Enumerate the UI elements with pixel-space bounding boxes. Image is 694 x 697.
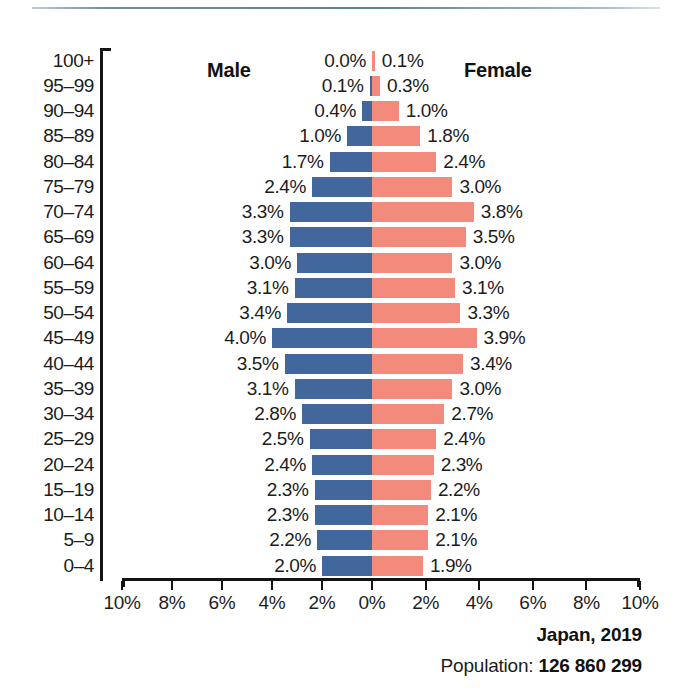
bar-female: [372, 354, 463, 374]
age-group-label: 90–94: [14, 100, 94, 122]
value-label-female: 2.3%: [441, 454, 511, 476]
x-axis-tick: [585, 581, 587, 590]
pyramid-row: 5–92.2%2.1%: [0, 528, 694, 553]
pyramid-row: 100+0.0%0.1%: [0, 48, 694, 73]
pyramid-row: 45–494.0%3.9%: [0, 326, 694, 351]
bar-male: [310, 429, 373, 449]
population-pyramid-chart: 10%8%6%4%2%0%2%4%6%8%10% 100+0.0%0.1%95–…: [0, 0, 694, 697]
x-axis-tick-label: 4%: [449, 592, 509, 614]
bar-female: [372, 556, 423, 576]
pyramid-row: 55–593.1%3.1%: [0, 275, 694, 300]
value-label-male: 2.4%: [236, 454, 306, 476]
bar-male: [362, 101, 372, 121]
age-group-label: 45–49: [14, 327, 94, 349]
value-label-female: 1.0%: [406, 100, 476, 122]
bar-male: [297, 253, 372, 273]
bar-female: [372, 278, 455, 298]
x-axis-tick: [532, 581, 534, 590]
value-label-female: 3.0%: [459, 252, 529, 274]
x-axis-tick: [171, 581, 173, 590]
pyramid-row: 75–792.4%3.0%: [0, 174, 694, 199]
age-group-label: 10–14: [14, 504, 94, 526]
x-axis-tick: [221, 581, 223, 590]
bar-male: [315, 480, 373, 500]
header-divider: [32, 7, 660, 9]
bar-male: [287, 303, 372, 323]
bar-male: [272, 328, 372, 348]
bar-male: [285, 354, 373, 374]
value-label-male: 3.5%: [209, 353, 279, 375]
pyramid-rows: 100+0.0%0.1%95–990.1%0.3%90–940.4%1.0%85…: [0, 48, 694, 578]
pyramid-row: 65–693.3%3.5%: [0, 225, 694, 250]
value-label-male: 2.5%: [234, 428, 304, 450]
value-label-male: 0.0%: [296, 50, 366, 72]
bar-male: [302, 404, 372, 424]
value-label-male: 2.2%: [241, 529, 311, 551]
age-group-label: 25–29: [14, 428, 94, 450]
value-label-female: 2.2%: [438, 479, 508, 501]
value-label-male: 2.0%: [246, 555, 316, 577]
pyramid-row: 80–841.7%2.4%: [0, 149, 694, 174]
bar-female: [372, 480, 431, 500]
value-label-female: 2.4%: [443, 151, 513, 173]
value-label-female: 3.3%: [467, 302, 537, 324]
bar-female: [372, 505, 428, 525]
bar-male: [312, 177, 372, 197]
bar-male: [347, 126, 372, 146]
value-label-male: 3.1%: [219, 277, 289, 299]
bar-male: [315, 505, 373, 525]
x-axis-tick-label: 0%: [342, 592, 402, 614]
age-group-label: 80–84: [14, 151, 94, 173]
age-group-label: 50–54: [14, 302, 94, 324]
pyramid-row: 10–142.3%2.1%: [0, 503, 694, 528]
pyramid-row: 0–42.0%1.9%: [0, 553, 694, 578]
pyramid-row: 95–990.1%0.3%: [0, 73, 694, 98]
bar-female: [372, 429, 436, 449]
bar-male: [290, 227, 373, 247]
bar-female: [372, 51, 375, 71]
x-axis-tick-label: 10%: [610, 592, 670, 614]
pyramid-row: 30–342.8%2.7%: [0, 402, 694, 427]
value-label-male: 0.1%: [294, 75, 364, 97]
bar-male: [295, 278, 373, 298]
age-group-label: 40–44: [14, 353, 94, 375]
value-label-male: 3.3%: [214, 201, 284, 223]
pyramid-row: 40–443.5%3.4%: [0, 351, 694, 376]
pyramid-row: 15–192.3%2.2%: [0, 477, 694, 502]
pyramid-row: 85–891.0%1.8%: [0, 124, 694, 149]
value-label-male: 2.8%: [226, 403, 296, 425]
value-label-female: 0.1%: [382, 50, 452, 72]
value-label-female: 0.3%: [387, 75, 457, 97]
value-label-male: 3.1%: [219, 378, 289, 400]
bar-female: [372, 379, 452, 399]
age-group-label: 30–34: [14, 403, 94, 425]
bar-female: [372, 101, 399, 121]
age-group-label: 55–59: [14, 277, 94, 299]
value-label-female: 3.4%: [470, 353, 540, 375]
population-label: Population:: [441, 655, 534, 676]
age-group-label: 20–24: [14, 454, 94, 476]
value-label-male: 4.0%: [196, 327, 266, 349]
x-axis-tick: [425, 581, 427, 590]
bar-male: [295, 379, 373, 399]
bar-female: [372, 152, 436, 172]
x-axis-tick-label: 2%: [396, 592, 456, 614]
age-group-label: 75–79: [14, 176, 94, 198]
value-label-male: 2.3%: [239, 504, 309, 526]
bar-female: [372, 455, 434, 475]
bar-female: [372, 328, 477, 348]
bar-female: [372, 227, 466, 247]
value-label-female: 3.0%: [459, 378, 529, 400]
bar-male: [290, 202, 373, 222]
pyramid-row: 70–743.3%3.8%: [0, 200, 694, 225]
bar-female: [372, 126, 420, 146]
value-label-female: 1.8%: [427, 125, 497, 147]
value-label-male: 3.4%: [211, 302, 281, 324]
bar-female: [372, 404, 444, 424]
x-axis-tick: [321, 581, 323, 590]
value-label-male: 1.0%: [271, 125, 341, 147]
value-label-female: 3.0%: [459, 176, 529, 198]
bar-male: [312, 455, 372, 475]
value-label-male: 1.7%: [254, 151, 324, 173]
pyramid-row: 25–292.5%2.4%: [0, 427, 694, 452]
